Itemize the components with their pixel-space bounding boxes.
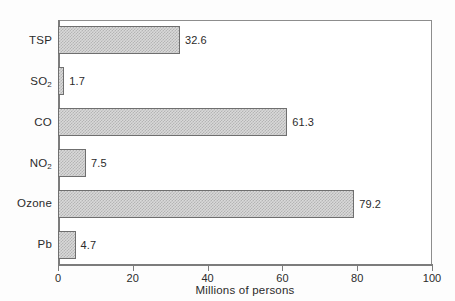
bar-row: 32.6 <box>58 20 432 61</box>
bar-value-label: 32.6 <box>185 34 207 46</box>
x-tick-label: 80 <box>351 272 363 284</box>
x-tick-label: 60 <box>276 272 288 284</box>
bar-chart: TSPSO2CONO2OzonePb 32.61.761.37.579.24.7… <box>0 0 455 301</box>
bar-row: 7.5 <box>58 143 432 184</box>
bar-no2 <box>58 149 86 177</box>
category-label-no2: NO2 <box>30 143 52 184</box>
bar-pb <box>58 231 76 259</box>
x-tick <box>208 266 209 271</box>
category-label-ozone: Ozone <box>17 183 52 224</box>
x-tick-label: 0 <box>55 272 61 284</box>
bar-value-label: 79.2 <box>359 198 381 210</box>
x-tick-label: 100 <box>423 272 442 284</box>
bars-layer: 32.61.761.37.579.24.7 <box>58 20 432 265</box>
x-tick <box>58 266 59 271</box>
bar-row: 4.7 <box>58 224 432 265</box>
category-label-so2: SO2 <box>30 61 52 102</box>
bar-row: 79.2 <box>58 183 432 224</box>
x-tick-label: 40 <box>201 272 213 284</box>
bar-row: 61.3 <box>58 102 432 143</box>
x-tick <box>432 266 433 271</box>
bar-tsp <box>58 26 180 54</box>
category-label-pb: Pb <box>38 224 52 265</box>
x-tick-label: 20 <box>127 272 139 284</box>
category-label-tsp: TSP <box>29 20 52 61</box>
bar-value-label: 1.7 <box>69 75 85 87</box>
category-label-co: CO <box>34 102 52 143</box>
bar-ozone <box>58 190 354 218</box>
bar-co <box>58 108 287 136</box>
x-tick <box>357 266 358 271</box>
category-axis-labels: TSPSO2CONO2OzonePb <box>0 20 52 265</box>
bar-value-label: 61.3 <box>292 116 314 128</box>
bar-value-label: 4.7 <box>81 239 97 251</box>
x-axis-title: Millions of persons <box>58 284 432 296</box>
x-tick <box>133 266 134 271</box>
bar-so2 <box>58 67 64 95</box>
bar-row: 1.7 <box>58 61 432 102</box>
x-tick <box>282 266 283 271</box>
bar-value-label: 7.5 <box>91 157 107 169</box>
